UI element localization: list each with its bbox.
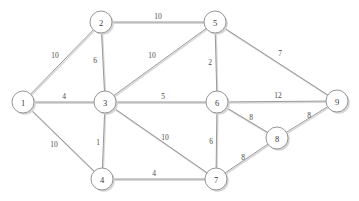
graph-node-5: 5 [204, 11, 228, 35]
edge-shadow [32, 31, 95, 95]
edge-weight-label-6-7: 6 [209, 137, 213, 146]
node-label-3: 3 [103, 98, 107, 108]
node-label-7: 7 [214, 175, 218, 185]
edge-weight-label-1-4: 10 [50, 140, 58, 149]
graph-node-7: 7 [205, 168, 229, 192]
edge-weight-label-1-3: 4 [62, 92, 66, 101]
edge-weight-label-1-2: 10 [51, 51, 59, 60]
node-label-9: 9 [335, 97, 339, 107]
graph-edge-5-9 [224, 28, 328, 95]
graph-edge-3-5 [114, 28, 206, 95]
edge-layer [31, 22, 328, 179]
edge-weight-label-8-9: 8 [307, 111, 311, 120]
edge-weight-label-5-9: 7 [278, 49, 282, 58]
edge-shadow [226, 145, 269, 174]
edge-shadow [115, 30, 207, 97]
graph-edge-1-2 [31, 30, 94, 94]
edge-weight-label-3-6: 5 [161, 92, 165, 101]
edge-shadow [227, 109, 268, 134]
edge-weight-label-3-4: 1 [96, 138, 100, 147]
node-label-1: 1 [21, 98, 25, 108]
graph-node-6: 6 [206, 91, 230, 115]
edge-weight-label-7-8: 8 [241, 153, 245, 162]
graph-diagram: 123456789 10410106105110427128688 [0, 0, 359, 201]
node-label-5: 5 [213, 18, 217, 28]
edge-weight-label-2-5: 10 [154, 12, 162, 21]
graph-canvas: 123456789 10410106105110427128688 [0, 0, 359, 201]
edge-weight-label-6-8: 8 [249, 113, 253, 122]
graph-node-9: 9 [326, 90, 350, 114]
graph-node-8: 8 [266, 127, 290, 151]
node-label-6: 6 [215, 98, 219, 108]
graph-edge-7-8 [225, 144, 268, 173]
edge-weight-label-4-7: 4 [152, 169, 156, 178]
edge-shadow [229, 102, 327, 103]
graph-edge-6-8 [226, 108, 267, 133]
edge-weight-label-6-9: 12 [274, 91, 282, 100]
edge-weight-label-3-5: 10 [148, 51, 156, 60]
edge-weight-label-2-3: 6 [93, 56, 97, 65]
graph-node-3: 3 [94, 91, 118, 115]
node-label-2: 2 [99, 18, 103, 28]
graph-node-4: 4 [91, 168, 115, 192]
edge-weight-label-5-6: 2 [208, 58, 212, 67]
edge-weight-label-3-7: 10 [161, 133, 169, 142]
graph-edge-1-4 [31, 110, 94, 172]
node-label-8: 8 [275, 134, 279, 144]
